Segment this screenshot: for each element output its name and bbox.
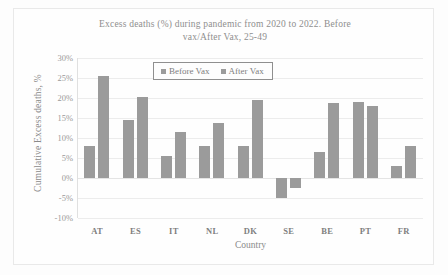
bar — [367, 106, 378, 178]
x-axis-label: Country — [78, 240, 423, 250]
legend-swatch-icon — [161, 69, 166, 74]
bar — [252, 100, 263, 178]
y-axis-tick-label: -10% — [55, 213, 73, 223]
y-axis-tick-label: 25% — [57, 73, 73, 83]
bar — [98, 76, 109, 178]
y-axis-tick-label: 5% — [62, 153, 73, 163]
bar-group — [308, 58, 346, 218]
y-axis-tick-label: 30% — [57, 53, 73, 63]
bar-series-container — [78, 58, 423, 218]
chart-legend: Before VaxAfter Vax — [153, 62, 273, 80]
gridline: -10% — [78, 218, 423, 219]
bar — [328, 103, 339, 178]
bar-group — [385, 58, 423, 218]
bar — [213, 123, 224, 178]
bar — [391, 166, 402, 178]
legend-item: After Vax — [221, 66, 264, 76]
chart-title: Excess deaths (%) during pandemic from 2… — [60, 18, 390, 44]
x-axis-tick-label: AT — [78, 226, 116, 236]
bar-group — [193, 58, 231, 218]
chart-figure: Excess deaths (%) during pandemic from 2… — [0, 0, 448, 275]
bar-group — [270, 58, 308, 218]
y-axis-tick-label: 0% — [62, 173, 73, 183]
legend-swatch-icon — [221, 69, 226, 74]
legend-label: After Vax — [229, 66, 264, 76]
y-axis-tick-label: -5% — [59, 193, 73, 203]
bar — [84, 146, 95, 178]
bar-group — [117, 58, 155, 218]
x-axis-tick-label: PT — [347, 226, 385, 236]
bar — [175, 132, 186, 178]
y-axis-tick-label: 10% — [57, 133, 73, 143]
bar-group — [155, 58, 193, 218]
bar — [314, 152, 325, 178]
bar-group — [78, 58, 116, 218]
bar — [123, 120, 134, 178]
bar — [161, 156, 172, 178]
legend-item: Before Vax — [161, 66, 210, 76]
bar — [353, 102, 364, 178]
chart-title-line-1: Excess deaths (%) during pandemic from 2… — [99, 19, 351, 29]
y-axis-tick-label: 20% — [57, 93, 73, 103]
bar — [290, 178, 301, 188]
bar — [276, 178, 287, 198]
legend-label: Before Vax — [169, 66, 210, 76]
plot-area: 30%25%20%15%10%5%0%-5%-10% ATESITNLDKSEB… — [78, 58, 423, 218]
bar — [199, 146, 210, 178]
x-axis-tick-label: ES — [117, 226, 155, 236]
bar — [137, 97, 148, 178]
bar-group — [232, 58, 270, 218]
x-axis-tick-label: BE — [308, 226, 346, 236]
y-axis-tick-label: 15% — [57, 113, 73, 123]
bar-group — [347, 58, 385, 218]
x-axis-tick-label: SE — [270, 226, 308, 236]
x-axis-tick-label: DK — [232, 226, 270, 236]
x-axis-tick-label: NL — [193, 226, 231, 236]
chart-title-line-2: vax/After Vax, 25-49 — [183, 32, 267, 42]
y-axis-label: Cumulative Excess deaths, % — [33, 48, 43, 218]
bar — [405, 146, 416, 178]
x-axis-tick-label: IT — [155, 226, 193, 236]
x-axis-tick-label: FR — [385, 226, 423, 236]
bar — [238, 146, 249, 178]
